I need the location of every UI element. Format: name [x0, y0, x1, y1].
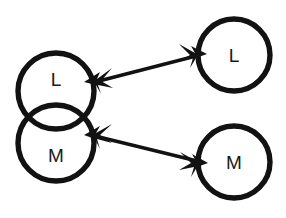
- node-left-m[interactable]: [18, 105, 94, 181]
- edge-m-shaft: [95, 136, 197, 161]
- edge-l-bidirectional-arrow[interactable]: [84, 44, 207, 94]
- node-left-m-circle: [18, 105, 94, 181]
- edge-l-shaft: [95, 56, 196, 82]
- edge-m-bidirectional-arrow[interactable]: [84, 124, 208, 177]
- diagram-canvas: L M L M: [0, 0, 286, 218]
- diagram-svg: L M L M: [0, 0, 286, 218]
- node-right-l-label: L: [229, 45, 240, 66]
- node-left-m-label: M: [48, 145, 64, 166]
- node-right-m-label: M: [226, 152, 242, 173]
- node-left-l-label: L: [51, 69, 62, 90]
